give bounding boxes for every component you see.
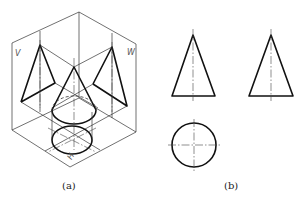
caption-a: (a) xyxy=(62,180,76,191)
v-plane-label: V xyxy=(15,49,21,58)
front-view-triangle xyxy=(172,35,215,96)
cone-projection-diagram: V W H (a) (b) xyxy=(0,0,303,198)
h-plane-label: H xyxy=(66,152,77,162)
panel-a-isometric-box: V W H (a) xyxy=(12,12,136,191)
h-plane-fold-2 xyxy=(45,106,127,151)
caption-b: (b) xyxy=(224,180,238,191)
v-base-projector xyxy=(55,83,98,108)
v-plane-triangle xyxy=(21,45,55,102)
w-plane-label: W xyxy=(127,48,136,57)
w-plane-triangle xyxy=(93,47,127,106)
panel-b-three-views: (b) xyxy=(168,29,293,191)
h-plane-edge-2 xyxy=(79,98,136,132)
h-plane-ellipse xyxy=(52,126,92,154)
